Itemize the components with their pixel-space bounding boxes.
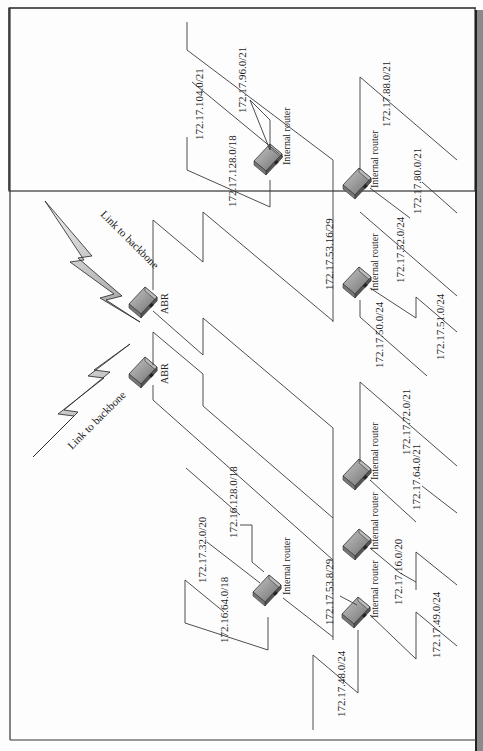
router-icon: [343, 267, 371, 298]
internal-router-1[interactable]: Internal router: [254, 107, 292, 175]
router-icon: [254, 144, 282, 175]
subnet-label: 172.17.52.0/24: [394, 216, 406, 283]
router-label: Internal router: [369, 422, 380, 480]
lightning-bolt-icon: [45, 201, 140, 322]
router-label: Internal router: [281, 537, 292, 595]
subnet-label: 172.16.128.0/18: [227, 466, 239, 538]
figure-page: Link to backbone Link to backbone ABR AB…: [0, 0, 483, 751]
router-label: Internal router: [369, 492, 380, 550]
subnet-label: 172.17.64.0/21: [410, 444, 422, 510]
router-icon: [343, 168, 371, 199]
subnet-label: 172.17.80.0/21: [411, 148, 423, 214]
router-icon: [129, 287, 157, 318]
subnet-label: 172.17.50.0/24: [373, 301, 385, 368]
internal-router-4[interactable]: Internal router: [343, 422, 380, 490]
internal-router-3[interactable]: Internal router: [343, 233, 380, 298]
subnet-label: 172.17.48.0/24: [335, 650, 347, 717]
subnet-label: 172.17.128.0/18: [226, 135, 238, 207]
backbone-link-2: Link to backbone: [33, 344, 130, 457]
router-icon: [343, 529, 371, 560]
transit-label-8: 172.17.53.8/29: [323, 558, 335, 625]
subnet-label: 172.17.49.0/24: [430, 591, 442, 658]
router-label: Internal router: [369, 130, 380, 188]
router-icon: [253, 575, 281, 606]
network-diagram: Link to backbone Link to backbone ABR AB…: [0, 0, 483, 751]
subnet-label: 172.17.51.0/24: [434, 293, 446, 360]
transit-label-16: 172.17.53.16/29: [323, 218, 335, 290]
internal-router-7[interactable]: Internal router: [253, 537, 292, 606]
router-label: Internal router: [369, 233, 380, 291]
router-icon: [342, 597, 370, 628]
subnet-label: 172.17.104.0/21: [193, 68, 205, 140]
backbone-link-label: Link to backbone: [99, 208, 162, 271]
right-sidebar-strip: [476, 10, 483, 751]
abr-router-2[interactable]: ABR: [129, 357, 170, 388]
backbone-link-label: Link to backbone: [65, 388, 128, 451]
subnet-label: 172.17.32.0/20: [196, 516, 208, 583]
router-label: Internal router: [369, 560, 380, 618]
router-icon: [343, 459, 371, 490]
subnet-label: 172.17.88.0/21: [380, 61, 392, 127]
abr-label: ABR: [159, 363, 170, 384]
subnet-label: 172.17.16.0/20: [392, 538, 404, 605]
abr-router-1[interactable]: ABR: [129, 287, 170, 318]
internal-router-2[interactable]: Internal router: [343, 130, 380, 199]
subnet-label: 172.17.96.0/21: [236, 47, 248, 113]
internal-router-6[interactable]: Internal router: [342, 560, 380, 628]
subnet-label: 172.16.64.0/18: [218, 576, 230, 643]
internal-router-5[interactable]: Internal router: [343, 492, 380, 560]
abr-label: ABR: [159, 293, 170, 314]
